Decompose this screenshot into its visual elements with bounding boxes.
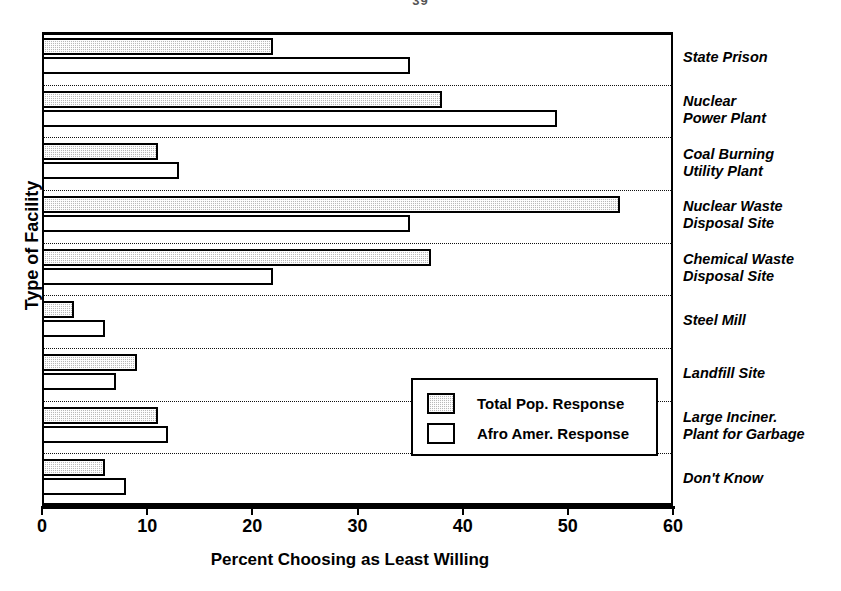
legend-swatch-total-pop-icon xyxy=(427,393,455,414)
x-tick-label: 20 xyxy=(242,516,262,537)
x-tick xyxy=(251,506,253,515)
bar-total-pop xyxy=(42,354,137,371)
x-axis-title: Percent Choosing as Least Willing xyxy=(0,550,700,570)
category-label: Nuclear Power Plant xyxy=(683,93,766,127)
bar-afro-amer xyxy=(42,110,557,127)
legend-label-total-pop: Total Pop. Response xyxy=(477,395,624,412)
bar-afro-amer xyxy=(42,426,168,443)
group-separator xyxy=(42,137,673,138)
bar-total-pop xyxy=(42,459,105,476)
bar-total-pop xyxy=(42,407,158,424)
bar-total-pop xyxy=(42,301,74,318)
group-separator xyxy=(42,295,673,296)
bar-afro-amer xyxy=(42,162,179,179)
x-tick-label: 30 xyxy=(347,516,367,537)
bar-afro-amer xyxy=(42,215,410,232)
category-label: Don't Know xyxy=(683,470,763,487)
category-label: Nuclear Waste Disposal Site xyxy=(683,198,783,232)
bar-afro-amer xyxy=(42,57,410,74)
page-number: 39 xyxy=(0,0,841,8)
category-label: Coal Burning Utility Plant xyxy=(683,146,774,180)
bar-afro-amer xyxy=(42,373,116,390)
bar-total-pop xyxy=(42,38,273,55)
group-separator xyxy=(42,190,673,191)
legend-label-afro-amer: Afro Amer. Response xyxy=(477,425,629,442)
x-tick xyxy=(672,506,674,515)
category-label: Landfill Site xyxy=(683,365,765,382)
x-tick-label: 10 xyxy=(137,516,157,537)
category-label: State Prison xyxy=(683,49,768,66)
legend-entry-total-pop: Total Pop. Response xyxy=(427,393,624,414)
category-label: Chemical Waste Disposal Site xyxy=(683,251,794,285)
bar-chart: 39 0102030405060 Percent Choosing as Lea… xyxy=(0,0,841,591)
y-axis-title: Type of Facility xyxy=(22,136,43,356)
x-tick-label: 50 xyxy=(558,516,578,537)
bar-total-pop xyxy=(42,196,620,213)
x-tick-label: 0 xyxy=(37,516,47,537)
category-label: Steel Mill xyxy=(683,312,746,329)
x-tick xyxy=(41,506,43,515)
bar-afro-amer xyxy=(42,320,105,337)
x-tick-label: 40 xyxy=(453,516,473,537)
x-tick-label: 60 xyxy=(663,516,683,537)
group-separator xyxy=(42,85,673,86)
bar-total-pop xyxy=(42,249,431,266)
x-tick xyxy=(146,506,148,515)
legend-entry-afro-amer: Afro Amer. Response xyxy=(427,423,629,444)
x-tick xyxy=(567,506,569,515)
x-tick xyxy=(357,506,359,515)
bar-afro-amer xyxy=(42,478,126,495)
bar-total-pop xyxy=(42,91,442,108)
bar-afro-amer xyxy=(42,268,273,285)
group-separator xyxy=(42,243,673,244)
legend: Total Pop. Response Afro Amer. Response xyxy=(411,378,658,456)
x-axis-line xyxy=(42,506,675,509)
x-tick xyxy=(462,506,464,515)
legend-swatch-afro-amer-icon xyxy=(427,423,455,444)
group-separator xyxy=(42,348,673,349)
bar-total-pop xyxy=(42,143,158,160)
category-label: Large Inciner. Plant for Garbage xyxy=(683,409,805,443)
